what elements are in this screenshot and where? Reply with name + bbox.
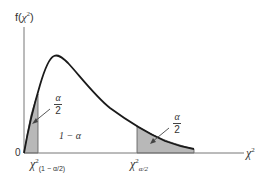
y-axis-label: f(χ2) <box>15 12 34 23</box>
center-region-label: 1 − α <box>59 131 81 141</box>
x-axis-sup: 2 <box>251 146 255 154</box>
lower-critical-label: χ2(1 − α/2) <box>30 158 65 170</box>
density-curve <box>24 55 194 153</box>
left-tail-denominator: 2 <box>55 106 61 116</box>
y-axis-close: ) <box>30 11 34 23</box>
chi-square-diagram <box>0 0 269 181</box>
left-tail-fraction: α 2 <box>54 93 62 116</box>
origin-label: 0 <box>15 148 21 158</box>
upper-critical-label: χ2α/2 <box>130 158 148 170</box>
x-axis-label: χ2 <box>246 147 255 159</box>
lower-critical-sub: (1 − α/2) <box>39 165 65 172</box>
y-axis-fn: f( <box>15 11 22 23</box>
upper-critical-sub: α/2 <box>139 165 148 173</box>
right-tail-numerator: α <box>174 112 179 122</box>
right-tail-shade <box>137 126 194 153</box>
right-tail-fraction: α 2 <box>173 112 181 135</box>
right-tail-denominator: 2 <box>174 125 180 135</box>
lower-critical-sup: 2 <box>35 157 39 165</box>
upper-critical-sup: 2 <box>135 157 139 165</box>
left-tail-numerator: α <box>55 93 60 103</box>
